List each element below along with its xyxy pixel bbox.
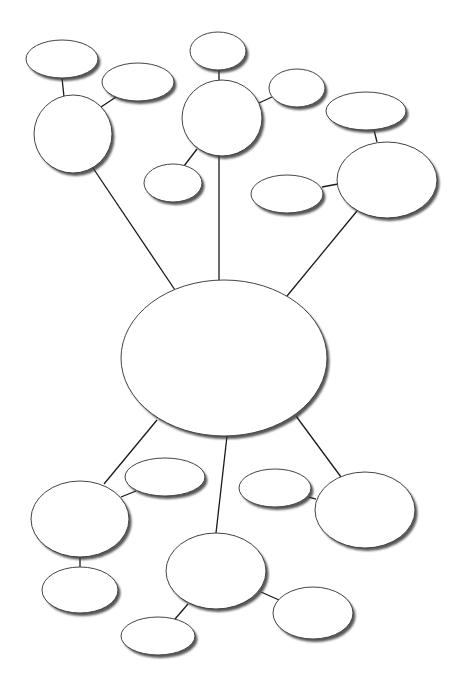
bubble-node-tc-hub [182, 80, 265, 159]
bubble-node-tr-hub [337, 142, 440, 221]
bubble-ellipse [337, 142, 437, 218]
bubble-node-bl-a [125, 458, 208, 499]
bubble-node-bl-hub [31, 481, 132, 560]
bubble-node-bc-hub [166, 533, 269, 612]
bubble-ellipse [326, 92, 406, 130]
bubble-node-br-hub [315, 472, 418, 551]
bubble-ellipse [125, 458, 205, 496]
bubble-ellipse [102, 63, 174, 101]
connector-center-to-br-hub [296, 416, 341, 477]
bubble-node-center [121, 280, 330, 439]
connector-bl-hub-to-bl-a [121, 491, 136, 497]
connector-tr-hub-to-tr-b [322, 184, 338, 187]
bubble-ellipse [31, 481, 129, 557]
bubble-ellipse [239, 469, 311, 507]
bubble-ellipse [121, 280, 327, 436]
connector-tl-hub-to-tl-b [101, 97, 116, 107]
bubble-ellipse [182, 80, 262, 156]
bubble-node-tr-a [326, 92, 409, 133]
bubble-ellipse [34, 95, 112, 173]
connector-bc-hub-to-bc-a [175, 604, 188, 619]
bubble-nodes [26, 32, 440, 658]
bubble-ellipse [273, 587, 353, 639]
bubble-ellipse [144, 164, 202, 202]
connector-tc-hub-to-tc-c [184, 149, 197, 166]
bubble-node-tc-c [144, 164, 205, 205]
bubble-ellipse [269, 69, 325, 107]
connector-tc-hub-to-tc-b [259, 97, 272, 103]
bubble-map-diagram [0, 0, 461, 688]
connector-center-to-tr-hub [287, 211, 357, 296]
bubble-ellipse [166, 533, 266, 609]
bubble-node-tl-b [102, 63, 177, 104]
bubble-node-bl-b [42, 567, 121, 616]
bubble-ellipse [190, 32, 246, 70]
bubble-node-tr-b [251, 175, 326, 216]
connector-bc-hub-to-bc-b [261, 592, 279, 600]
bubble-ellipse [251, 175, 323, 213]
bubble-ellipse [26, 40, 98, 78]
bubble-node-tc-a [190, 32, 249, 73]
bubble-ellipse [42, 567, 118, 613]
bubble-node-tl-hub [34, 95, 115, 176]
bubble-ellipse [121, 617, 195, 655]
bubble-node-tc-b [269, 69, 328, 110]
connector-center-to-bc-hub [216, 436, 227, 533]
bubble-node-bc-b [273, 587, 356, 642]
bubble-node-tl-a [26, 40, 101, 81]
bubble-ellipse [315, 472, 415, 548]
bubble-node-bc-a [121, 617, 198, 658]
bubble-node-br-a [239, 469, 314, 510]
